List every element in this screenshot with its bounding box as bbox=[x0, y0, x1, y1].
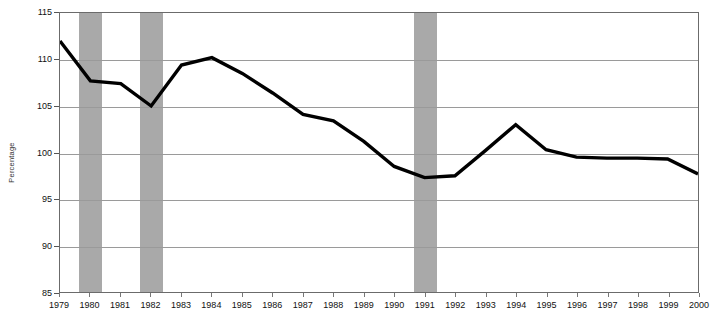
x-tick-label-1990: 1990 bbox=[384, 300, 404, 310]
y-tick-label-115: 115 bbox=[24, 8, 52, 17]
line-chart: Percentage 115110105100959085 1979198019… bbox=[0, 0, 710, 324]
x-tick-label-1982: 1982 bbox=[140, 300, 160, 310]
x-tick-label-1985: 1985 bbox=[232, 300, 252, 310]
x-tick-label-1997: 1997 bbox=[598, 300, 618, 310]
y-tick-label-95: 95 bbox=[24, 195, 52, 204]
x-tick-label-1999: 1999 bbox=[659, 300, 679, 310]
x-tick-mark-1996 bbox=[577, 293, 578, 297]
y-axis-title: Percentage bbox=[0, 0, 22, 324]
y-tick-mark-85 bbox=[54, 293, 59, 294]
x-tick-mark-1984 bbox=[211, 293, 212, 297]
x-tick-label-1998: 1998 bbox=[628, 300, 648, 310]
x-tick-label-1995: 1995 bbox=[537, 300, 557, 310]
x-tick-label-1980: 1980 bbox=[79, 300, 99, 310]
x-tick-label-1986: 1986 bbox=[262, 300, 282, 310]
x-tick-mark-1993 bbox=[486, 293, 487, 297]
y-tick-label-85: 85 bbox=[24, 289, 52, 298]
y-tick-mark-100 bbox=[54, 153, 59, 154]
x-tick-mark-1992 bbox=[455, 293, 456, 297]
y-axis-tick-labels: 115110105100959085 bbox=[24, 0, 52, 324]
y-tick-label-105: 105 bbox=[24, 101, 52, 110]
x-tick-mark-1998 bbox=[638, 293, 639, 297]
x-tick-mark-1982 bbox=[150, 293, 151, 297]
x-tick-mark-2000 bbox=[699, 293, 700, 297]
x-tick-mark-1987 bbox=[303, 293, 304, 297]
x-axis: 1979198019811982198319841985198619871988… bbox=[59, 293, 699, 324]
x-tick-mark-1995 bbox=[547, 293, 548, 297]
x-tick-label-1992: 1992 bbox=[445, 300, 465, 310]
x-tick-mark-1980 bbox=[89, 293, 90, 297]
x-tick-label-1994: 1994 bbox=[506, 300, 526, 310]
x-tick-mark-1994 bbox=[516, 293, 517, 297]
x-tick-label-1979: 1979 bbox=[49, 300, 69, 310]
x-tick-label-1981: 1981 bbox=[110, 300, 130, 310]
x-tick-mark-1988 bbox=[333, 293, 334, 297]
x-tick-mark-1979 bbox=[59, 293, 60, 297]
x-tick-label-1983: 1983 bbox=[171, 300, 191, 310]
series-polyline bbox=[60, 41, 698, 178]
x-tick-label-2000: 2000 bbox=[689, 300, 709, 310]
x-tick-label-1988: 1988 bbox=[323, 300, 343, 310]
x-tick-label-1989: 1989 bbox=[354, 300, 374, 310]
x-tick-mark-1997 bbox=[608, 293, 609, 297]
x-tick-mark-1990 bbox=[394, 293, 395, 297]
x-tick-label-1984: 1984 bbox=[201, 300, 221, 310]
y-tick-label-100: 100 bbox=[24, 148, 52, 157]
x-tick-label-1993: 1993 bbox=[476, 300, 496, 310]
y-tick-label-90: 90 bbox=[24, 242, 52, 251]
x-tick-mark-1986 bbox=[272, 293, 273, 297]
series-line-percentage bbox=[60, 13, 698, 292]
y-axis-title-label: Percentage bbox=[7, 142, 16, 182]
x-tick-mark-1983 bbox=[181, 293, 182, 297]
y-tick-mark-105 bbox=[54, 106, 59, 107]
x-tick-mark-1991 bbox=[425, 293, 426, 297]
x-tick-label-1987: 1987 bbox=[293, 300, 313, 310]
y-tick-mark-95 bbox=[54, 199, 59, 200]
x-tick-mark-1989 bbox=[364, 293, 365, 297]
x-tick-mark-1999 bbox=[669, 293, 670, 297]
y-tick-mark-110 bbox=[54, 59, 59, 60]
x-tick-label-1996: 1996 bbox=[567, 300, 587, 310]
x-tick-mark-1985 bbox=[242, 293, 243, 297]
x-tick-mark-1981 bbox=[120, 293, 121, 297]
y-tick-mark-90 bbox=[54, 246, 59, 247]
plot-area bbox=[59, 12, 699, 293]
y-tick-mark-115 bbox=[54, 12, 59, 13]
y-tick-label-110: 110 bbox=[24, 54, 52, 63]
x-tick-label-1991: 1991 bbox=[415, 300, 435, 310]
